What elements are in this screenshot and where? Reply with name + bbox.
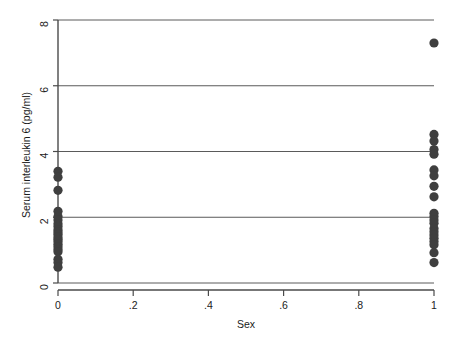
y-axis-title: Serum interleukin 6 (pg/ml) bbox=[20, 92, 32, 218]
data-point bbox=[53, 186, 62, 195]
y-tick-label-2: 2 bbox=[38, 218, 50, 224]
gridlines bbox=[58, 20, 434, 283]
data-point bbox=[429, 171, 438, 180]
x-tick-label-0.6: .6 bbox=[279, 299, 288, 311]
x-axis-title: Sex bbox=[237, 318, 256, 330]
data-point bbox=[429, 248, 438, 257]
data-point bbox=[429, 182, 438, 191]
plot-canvas: 02468 0.2.4.6.81 Serum interleukin 6 (pg… bbox=[0, 0, 468, 338]
y-tick-label-4: 4 bbox=[38, 152, 50, 158]
data-point bbox=[53, 173, 62, 182]
data-point bbox=[429, 136, 438, 145]
x-tick-label-0: 0 bbox=[55, 299, 61, 311]
x-tick-label-1: 1 bbox=[431, 299, 437, 311]
data-point bbox=[429, 258, 438, 267]
x-tick-label-0.8: .8 bbox=[354, 299, 363, 311]
y-tick-label-8: 8 bbox=[38, 21, 50, 27]
data-point bbox=[429, 192, 438, 201]
y-tick-label-6: 6 bbox=[38, 87, 50, 93]
data-points bbox=[53, 38, 438, 271]
x-axis-ticks bbox=[58, 290, 434, 296]
data-point bbox=[429, 38, 438, 47]
data-point bbox=[53, 263, 62, 272]
data-point bbox=[429, 240, 438, 249]
x-tick-label-0.2: .2 bbox=[129, 299, 138, 311]
x-tick-label-0.4: .4 bbox=[204, 299, 213, 311]
data-point bbox=[429, 150, 438, 159]
scatter-plot-figure: 02468 0.2.4.6.81 Serum interleukin 6 (pg… bbox=[0, 0, 468, 338]
x-axis-tick-labels: 0.2.4.6.81 bbox=[55, 299, 437, 311]
y-axis-tick-labels: 02468 bbox=[38, 21, 50, 290]
y-tick-label-0: 0 bbox=[38, 284, 50, 290]
